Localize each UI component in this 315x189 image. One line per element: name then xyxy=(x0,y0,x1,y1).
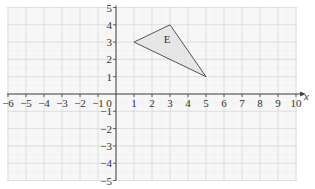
x-tick-label: −5 xyxy=(20,97,32,109)
y-tick-label: −4 xyxy=(100,157,112,169)
x-tick-label: 5 xyxy=(203,97,209,109)
y-tick-label: −1 xyxy=(100,105,112,117)
y-tick-label: −5 xyxy=(100,175,112,187)
y-tick-label: −3 xyxy=(100,140,112,152)
y-tick-label: 3 xyxy=(107,36,113,48)
x-tick-label: −4 xyxy=(38,97,50,109)
y-tick-label: 1 xyxy=(107,71,113,83)
coordinate-plane: E −6−5−4−3−2−1012345678910 54321−1−2−3−4… xyxy=(0,0,315,189)
x-tick-label: 10 xyxy=(291,97,303,109)
x-axis-ticks: −6−5−4−3−2−1012345678910 xyxy=(2,94,302,109)
y-tick-label: 5 xyxy=(107,2,113,14)
shape-label-e: E xyxy=(164,33,171,45)
x-tick-label: 8 xyxy=(257,97,263,109)
x-tick-label: −2 xyxy=(74,97,86,109)
x-tick-label: 9 xyxy=(275,97,281,109)
x-tick-label: −6 xyxy=(2,97,14,109)
x-tick-label: −3 xyxy=(56,97,68,109)
y-tick-label: 4 xyxy=(107,19,113,31)
x-tick-label: 1 xyxy=(131,97,137,109)
y-tick-label: −2 xyxy=(100,123,112,135)
x-tick-label: 3 xyxy=(167,97,173,109)
x-tick-label: 7 xyxy=(239,97,245,109)
x-tick-label: 6 xyxy=(221,97,227,109)
x-tick-label: 4 xyxy=(185,97,191,109)
x-axis-label: x xyxy=(303,90,309,102)
y-tick-label: 2 xyxy=(107,53,113,65)
x-tick-label: 2 xyxy=(149,97,155,109)
